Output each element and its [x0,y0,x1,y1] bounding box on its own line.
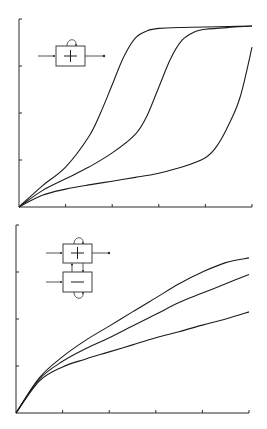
bottom-chart [16,225,249,413]
series-curve-1 [16,258,249,413]
self-loop-icon [74,238,83,244]
series-curve-3 [19,47,252,207]
figure-canvas [0,0,267,429]
top-chart [19,19,252,207]
bottom-chart-curves [16,258,249,413]
series-curve-2 [19,26,252,207]
self-loop-icon [67,40,76,46]
top-chart-curves [19,26,252,207]
positive-feedback-block-diagram [38,40,105,66]
self-loop-icon [74,292,83,298]
figure [0,0,267,429]
series-curve-3 [16,312,249,413]
coupled-blocks-diagram [46,238,110,299]
series-curve-1 [19,26,252,207]
top-chart-axes [19,19,252,207]
series-curve-2 [16,274,249,413]
